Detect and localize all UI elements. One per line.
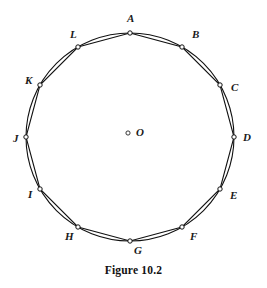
circumscribed-circle bbox=[26, 33, 234, 241]
vertex-marker-j bbox=[24, 135, 28, 139]
vertex-label-k: K bbox=[24, 74, 33, 86]
vertex-label-group: ABCDEFGHIJKL bbox=[12, 12, 251, 256]
vertex-label-c: C bbox=[231, 81, 239, 93]
vertex-label-l: L bbox=[69, 28, 77, 40]
vertex-marker-b bbox=[180, 45, 184, 49]
figure-container: O ABCDEFGHIJKL Figure 10.2 bbox=[0, 0, 267, 288]
vertex-label-i: I bbox=[27, 188, 33, 200]
vertex-label-b: B bbox=[191, 28, 199, 40]
geometry-diagram: O ABCDEFGHIJKL bbox=[0, 0, 267, 288]
vertex-label-a: A bbox=[126, 12, 134, 24]
inscribed-dodecagon bbox=[26, 33, 234, 241]
center-point-marker bbox=[126, 131, 130, 135]
vertex-marker-k bbox=[38, 83, 42, 87]
vertex-marker-a bbox=[128, 31, 132, 35]
vertex-label-e: E bbox=[229, 189, 237, 201]
vertex-label-d: D bbox=[242, 131, 251, 143]
vertex-marker-f bbox=[180, 225, 184, 229]
figure-caption: Figure 10.2 bbox=[0, 264, 267, 276]
vertex-marker-e bbox=[218, 187, 222, 191]
vertex-marker-i bbox=[38, 187, 42, 191]
vertex-marker-l bbox=[76, 45, 80, 49]
vertex-marker-c bbox=[218, 83, 222, 87]
vertex-marker-group bbox=[24, 31, 236, 243]
center-label: O bbox=[136, 126, 144, 138]
vertex-label-h: H bbox=[64, 230, 74, 242]
vertex-label-f: F bbox=[189, 230, 198, 242]
vertex-marker-h bbox=[76, 225, 80, 229]
vertex-label-j: J bbox=[12, 132, 19, 144]
vertex-marker-g bbox=[128, 239, 132, 243]
vertex-label-g: G bbox=[134, 244, 142, 256]
vertex-marker-d bbox=[232, 135, 236, 139]
